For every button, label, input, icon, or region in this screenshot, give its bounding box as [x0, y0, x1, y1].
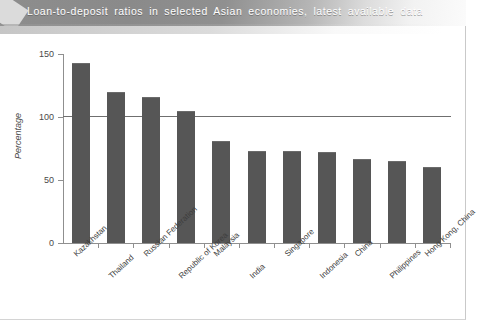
- x-tick-mark: [309, 243, 310, 248]
- y-tick-label: 50: [14, 175, 54, 185]
- x-tick-mark: [380, 243, 381, 248]
- chart-title: Loan-to-deposit ratios in selected Asian…: [27, 5, 423, 17]
- x-tick-mark: [450, 243, 451, 248]
- x-category-label: India: [248, 262, 267, 280]
- bar: [142, 97, 160, 243]
- y-tick-mark: [58, 117, 63, 118]
- banner-corner-sliver: [0, 0, 28, 26]
- bar: [353, 159, 371, 243]
- x-tick-mark: [239, 243, 240, 248]
- x-tick-mark: [274, 243, 275, 248]
- bar: [423, 167, 441, 243]
- x-tick-mark: [133, 243, 134, 248]
- bar: [212, 141, 230, 243]
- x-category-label: Philippines: [388, 248, 422, 281]
- bar: [107, 92, 125, 243]
- bar: [248, 151, 266, 243]
- banner-shadow: [0, 24, 466, 34]
- y-tick-label: 0: [14, 238, 54, 248]
- bar: [318, 152, 336, 243]
- y-axis-title: Percentage: [13, 96, 23, 176]
- bar: [283, 151, 301, 243]
- y-tick-mark: [58, 243, 63, 244]
- y-tick-mark: [58, 180, 63, 181]
- y-tick-mark: [58, 54, 63, 55]
- x-tick-mark: [98, 243, 99, 248]
- bar: [388, 161, 406, 243]
- x-category-label: Thailand: [107, 253, 136, 281]
- x-tick-mark: [344, 243, 345, 248]
- x-tick-mark: [169, 243, 170, 248]
- x-category-label: Indonesia: [318, 250, 350, 280]
- y-tick-label: 150: [14, 49, 54, 59]
- bar: [72, 63, 90, 243]
- y-axis-line: [63, 54, 64, 244]
- y-tick-label: 100: [14, 112, 54, 122]
- x-axis-line: [63, 243, 451, 244]
